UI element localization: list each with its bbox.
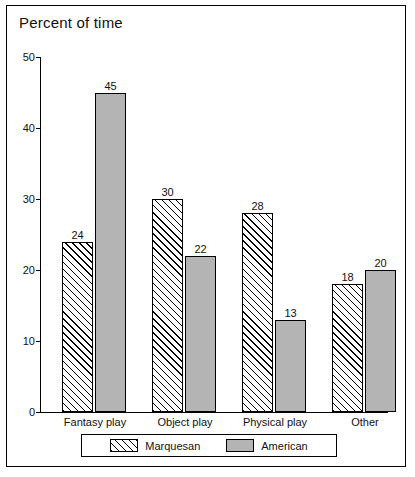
y-tick-mark xyxy=(36,199,40,200)
x-tick-label-fantasy-play: Fantasy play xyxy=(64,416,126,428)
y-tick-label: 30 xyxy=(23,193,35,205)
bar-group-other: 18 20 Other xyxy=(332,57,398,412)
legend-swatch-hatch-icon xyxy=(110,439,138,452)
y-tick-label: 20 xyxy=(23,264,35,276)
bar-value: 28 xyxy=(251,200,263,212)
chart-legend: Marquesan American xyxy=(81,434,337,457)
y-tick-mark xyxy=(36,270,40,271)
bar-value: 22 xyxy=(194,243,206,255)
bar-value: 45 xyxy=(104,80,116,92)
bar-american-fantasy-play: 45 xyxy=(95,93,126,413)
bar-marquesan-object-play: 30 xyxy=(152,199,183,412)
y-tick-label: 40 xyxy=(23,122,35,134)
bar-american-other: 20 xyxy=(365,270,396,412)
y-tick-label: 50 xyxy=(23,51,35,63)
bar-value: 18 xyxy=(341,271,353,283)
bar-group-object-play: 30 22 Object play xyxy=(152,57,218,412)
chart-title: Percent of time xyxy=(19,14,123,31)
legend-item-american: American xyxy=(226,439,307,452)
y-tick-label: 10 xyxy=(23,335,35,347)
x-tick-label-other: Other xyxy=(351,416,379,428)
plot-area: 0 10 20 30 40 50 24 45 xyxy=(40,57,388,412)
y-tick-mark xyxy=(36,57,40,58)
y-tick-mark xyxy=(36,412,40,413)
bar-value: 13 xyxy=(284,307,296,319)
y-tick-mark xyxy=(36,128,40,129)
x-axis-line xyxy=(40,412,388,413)
y-axis-line xyxy=(40,57,41,412)
bar-american-object-play: 22 xyxy=(185,256,216,412)
legend-item-marquesan: Marquesan xyxy=(110,439,200,452)
legend-swatch-solid-icon xyxy=(226,439,254,452)
bar-value: 24 xyxy=(71,229,83,241)
bar-value: 30 xyxy=(161,186,173,198)
bar-marquesan-physical-play: 28 xyxy=(242,213,273,412)
x-tick-label-physical-play: Physical play xyxy=(243,416,307,428)
x-tick-label-object-play: Object play xyxy=(157,416,212,428)
bar-marquesan-fantasy-play: 24 xyxy=(62,242,93,412)
chart-frame: Percent of time 0 10 20 30 40 50 xyxy=(6,5,406,467)
bar-group-fantasy-play: 24 45 Fantasy play xyxy=(62,57,128,412)
legend-label-marquesan: Marquesan xyxy=(145,440,200,452)
y-tick-label: 0 xyxy=(29,406,35,418)
legend-label-american: American xyxy=(261,440,307,452)
bar-group-physical-play: 28 13 Physical play xyxy=(242,57,308,412)
y-tick-mark xyxy=(36,341,40,342)
bar-value: 20 xyxy=(374,257,386,269)
bar-marquesan-other: 18 xyxy=(332,284,363,412)
bar-american-physical-play: 13 xyxy=(275,320,306,412)
